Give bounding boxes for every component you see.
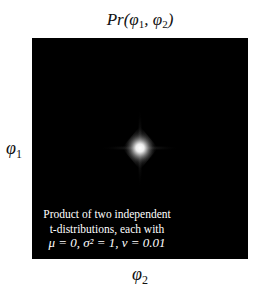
chart-title: Pr(φ1, φ2)	[32, 10, 248, 30]
y-axis-label: φ1	[6, 138, 22, 162]
x-axis-label: φ2	[32, 264, 248, 288]
chart-annotation: Product of two independent t-distributio…	[32, 207, 182, 251]
